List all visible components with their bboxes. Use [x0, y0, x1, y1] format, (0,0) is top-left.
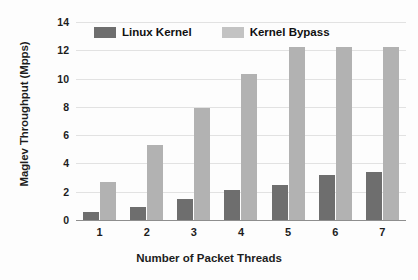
- legend-label-kernel-bypass: Kernel Bypass: [250, 26, 330, 38]
- bar: [241, 74, 257, 220]
- legend-swatch-icon-kernel-bypass: [222, 27, 244, 38]
- bar: [130, 207, 146, 220]
- bar-group: [76, 22, 123, 220]
- x-axis-tick-label: 6: [332, 226, 338, 238]
- legend: Linux Kernel Kernel Bypass: [94, 26, 330, 38]
- bar: [289, 47, 305, 220]
- y-axis-title: Maglev Throughput (Mpps): [18, 24, 30, 204]
- bar: [147, 145, 163, 220]
- x-axis-tick-label: 7: [379, 226, 385, 238]
- y-axis-tick-label: 0: [63, 214, 69, 226]
- bar-group: [265, 22, 312, 220]
- x-axis-tick-label: 2: [144, 226, 150, 238]
- y-axis-tick-label: 10: [57, 73, 69, 85]
- gridline: 0: [76, 220, 406, 221]
- bar-chart: Maglev Throughput (Mpps) 02468101214 123…: [0, 0, 418, 280]
- bar: [383, 47, 399, 220]
- plot-area: 02468101214 1234567: [76, 22, 406, 220]
- x-axis-tick-label: 4: [238, 226, 244, 238]
- bar: [319, 175, 335, 220]
- y-axis-tick-label: 2: [63, 186, 69, 198]
- x-axis-tick-label: 1: [97, 226, 103, 238]
- y-axis-tick-label: 6: [63, 129, 69, 141]
- bar: [194, 108, 210, 220]
- legend-label-linux-kernel: Linux Kernel: [122, 26, 192, 38]
- legend-item-kernel-bypass: Kernel Bypass: [222, 26, 330, 38]
- x-axis-title: Number of Packet Threads: [0, 252, 418, 264]
- bar: [272, 185, 288, 220]
- bar: [366, 172, 382, 220]
- bar-group: [170, 22, 217, 220]
- legend-swatch-icon-linux-kernel: [94, 27, 116, 38]
- bar-group: [217, 22, 264, 220]
- legend-item-linux-kernel: Linux Kernel: [94, 26, 192, 38]
- x-axis-tick-label: 3: [191, 226, 197, 238]
- bar-group: [123, 22, 170, 220]
- bar: [100, 182, 116, 220]
- y-axis-tick-label: 8: [63, 101, 69, 113]
- bar: [83, 212, 99, 220]
- bar: [224, 190, 240, 220]
- y-axis-tick-label: 14: [57, 16, 69, 28]
- bar-group: [312, 22, 359, 220]
- bar: [177, 199, 193, 220]
- bar: [336, 47, 352, 220]
- y-axis-tick-label: 4: [63, 157, 69, 169]
- x-axis-tick-label: 5: [285, 226, 291, 238]
- bar-group: [359, 22, 406, 220]
- bar-groups: [76, 22, 406, 220]
- y-axis-tick-label: 12: [57, 44, 69, 56]
